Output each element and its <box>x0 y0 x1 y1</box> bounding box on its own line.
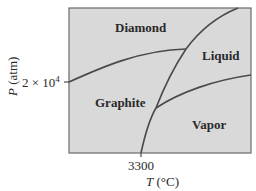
region-label-diamond: Diamond <box>115 20 167 35</box>
y-tick-label: 2 × 104 <box>22 74 60 90</box>
region-label-vapor: Vapor <box>192 117 226 132</box>
region-label-graphite: Graphite <box>95 95 146 110</box>
region-label-liquid: Liquid <box>202 48 240 63</box>
y-axis-label: P (atm) <box>5 57 20 97</box>
x-axis-label: T (°C) <box>146 174 179 189</box>
x-tick-label: 3300 <box>128 158 154 173</box>
phase-diagram: Diamond Liquid Graphite Vapor 2 × 104 P … <box>0 0 256 191</box>
